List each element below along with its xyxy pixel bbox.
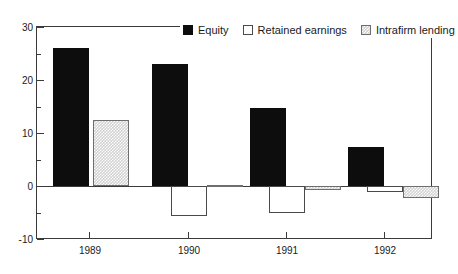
- bar-retained-1991: [269, 186, 305, 213]
- legend-entry-retained-earnings: Retained earnings: [243, 24, 347, 36]
- x-tick-1992: 1992: [384, 232, 385, 238]
- y-tick-30: 30: [37, 27, 44, 28]
- y-tick-minor-neg5: [37, 213, 41, 214]
- bar-intrafirm-1990: [207, 185, 243, 187]
- plot-area: 30 20 10 0 -10: [36, 26, 432, 239]
- bar-intrafirm-1992: [403, 186, 439, 198]
- y-tick-minor-5: [37, 160, 41, 161]
- y-tick-label-0: 0: [27, 182, 33, 192]
- x-tick-label-1989: 1989: [79, 245, 101, 256]
- x-tick-1989: 1989: [89, 232, 90, 238]
- y-tick-neg10: -10: [37, 239, 44, 240]
- legend-label-equity: Equity: [198, 24, 229, 36]
- y-tick-label-10: 10: [22, 129, 33, 139]
- bar-equity-1990: [152, 64, 188, 186]
- legend-swatch-intrafirm-lending-icon: [361, 25, 371, 35]
- legend-entry-equity: Equity: [183, 24, 229, 36]
- bar-intrafirm-1991: [305, 186, 341, 190]
- bar-equity-1989: [53, 48, 89, 186]
- y-tick-minor-15: [37, 107, 41, 108]
- legend-swatch-equity-icon: [183, 25, 193, 35]
- bar-equity-1992: [348, 147, 384, 186]
- bar-retained-1990: [171, 186, 207, 216]
- x-tick-1990: 1990: [188, 232, 189, 238]
- x-tick-label-1992: 1992: [374, 245, 396, 256]
- y-tick-10: 10: [37, 133, 44, 134]
- y-tick-label-20: 20: [22, 76, 33, 86]
- x-tick-label-1991: 1991: [276, 245, 298, 256]
- y-tick-label-neg10: -10: [19, 235, 33, 245]
- legend-swatch-retained-earnings-icon: [243, 25, 253, 35]
- bar-intrafirm-1989: [93, 120, 129, 186]
- chart-legend: Equity Retained earnings Intrafirm lendi…: [180, 22, 458, 38]
- legend-label-retained-earnings: Retained earnings: [258, 24, 347, 36]
- y-tick-minor-25: [37, 54, 41, 55]
- x-tick-label-1990: 1990: [178, 245, 200, 256]
- legend-label-intrafirm-lending: Intrafirm lending: [376, 24, 455, 36]
- y-tick-20: 20: [37, 80, 44, 81]
- bar-retained-1992: [367, 186, 403, 192]
- bar-equity-1991: [250, 108, 286, 186]
- x-tick-1991: 1991: [286, 232, 287, 238]
- legend-entry-intrafirm-lending: Intrafirm lending: [361, 24, 455, 36]
- y-tick-label-30: 30: [22, 23, 33, 33]
